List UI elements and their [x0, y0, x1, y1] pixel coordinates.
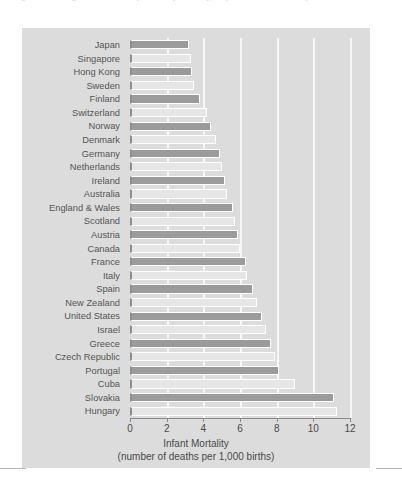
- table-row: [130, 309, 350, 324]
- x-tick-label-8: 8: [265, 423, 289, 434]
- category-label-united-states: United States: [0, 309, 124, 324]
- category-label-israel: Israel: [0, 323, 124, 338]
- bar-germany: [130, 149, 220, 158]
- x-tick-label-10: 10: [301, 423, 325, 434]
- category-label-scotland: Scotland: [0, 214, 124, 229]
- infant-mortality-figure: JapanSingaporeHong KongSwedenFinlandSwit…: [0, 0, 402, 490]
- category-label-switzerland: Switzerland: [0, 106, 124, 121]
- x-tick-label-0: 0: [118, 423, 142, 434]
- category-label-czech-republic: Czech Republic: [0, 350, 124, 365]
- x-tick-mark-6: [240, 418, 241, 422]
- bar-new-zealand: [130, 298, 257, 307]
- x-tick-label-6: 6: [228, 423, 252, 434]
- category-label-portugal: Portugal: [0, 364, 124, 379]
- bar-portugal: [130, 366, 279, 375]
- axis-subtitle: (number of deaths per 1,000 births): [22, 451, 370, 462]
- category-label-hong-kong: Hong Kong: [0, 65, 124, 80]
- bar-rows: [130, 38, 350, 418]
- category-label-cuba: Cuba: [0, 377, 124, 392]
- bar-israel: [130, 325, 266, 334]
- bar-finland: [130, 94, 200, 103]
- bar-australia: [130, 189, 227, 198]
- page-rule-right: [376, 468, 402, 469]
- bar-czech-republic: [130, 352, 275, 361]
- table-row: [130, 364, 350, 379]
- category-label-slovakia: Slovakia: [0, 391, 124, 406]
- table-row: [130, 391, 350, 406]
- bar-norway: [130, 122, 211, 131]
- category-label-singapore: Singapore: [0, 52, 124, 67]
- bar-greece: [130, 339, 271, 348]
- table-row: [130, 404, 350, 419]
- bar-japan: [130, 40, 189, 49]
- category-label-sweden: Sweden: [0, 79, 124, 94]
- category-label-ireland: Ireland: [0, 174, 124, 189]
- table-row: [130, 337, 350, 352]
- table-row: [130, 214, 350, 229]
- x-tick-label-12: 12: [338, 423, 362, 434]
- bar-ireland: [130, 176, 225, 185]
- table-row: [130, 377, 350, 392]
- category-label-england-wales: England & Wales: [0, 201, 124, 216]
- x-tick-mark-12: [350, 418, 351, 422]
- table-row: [130, 350, 350, 365]
- category-label-denmark: Denmark: [0, 133, 124, 148]
- category-label-australia: Australia: [0, 187, 124, 202]
- plot-area: [130, 38, 350, 418]
- bar-spain: [130, 284, 253, 293]
- table-row: [130, 255, 350, 270]
- table-row: [130, 201, 350, 216]
- bar-united-states: [130, 312, 262, 321]
- table-row: [130, 106, 350, 121]
- bar-singapore: [130, 54, 191, 63]
- category-label-greece: Greece: [0, 337, 124, 352]
- bar-france: [130, 257, 246, 266]
- table-row: [130, 38, 350, 53]
- bar-scotland: [130, 217, 235, 226]
- bar-hong-kong: [130, 67, 192, 76]
- category-axis-labels: JapanSingaporeHong KongSwedenFinlandSwit…: [0, 38, 124, 418]
- category-label-new-zealand: New Zealand: [0, 296, 124, 311]
- category-label-hungary: Hungary: [0, 404, 124, 419]
- x-tick-mark-4: [203, 418, 204, 422]
- bar-netherlands: [130, 162, 222, 171]
- x-tick-mark-10: [313, 418, 314, 422]
- category-label-spain: Spain: [0, 282, 124, 297]
- axis-title: Infant Mortality: [22, 438, 370, 449]
- x-tick-mark-2: [167, 418, 168, 422]
- page-rule-left: [0, 468, 26, 469]
- bar-england-wales: [130, 203, 233, 212]
- table-row: [130, 269, 350, 284]
- bar-slovakia: [130, 393, 334, 402]
- bar-austria: [130, 230, 238, 239]
- gridline-12: [350, 38, 352, 418]
- x-tick-mark-8: [277, 418, 278, 422]
- category-label-canada: Canada: [0, 242, 124, 257]
- table-row: [130, 133, 350, 148]
- bar-denmark: [130, 135, 216, 144]
- table-row: [130, 119, 350, 134]
- category-label-italy: Italy: [0, 269, 124, 284]
- table-row: [130, 79, 350, 94]
- bar-switzerland: [130, 108, 207, 117]
- category-label-japan: Japan: [0, 38, 124, 53]
- table-row: [130, 187, 350, 202]
- table-row: [130, 228, 350, 243]
- table-row: [130, 323, 350, 338]
- bar-canada: [130, 244, 240, 253]
- table-row: [130, 92, 350, 107]
- x-tick-label-4: 4: [191, 423, 215, 434]
- x-tick-mark-0: [130, 418, 131, 422]
- bar-hungary: [130, 407, 337, 416]
- table-row: [130, 242, 350, 257]
- category-label-austria: Austria: [0, 228, 124, 243]
- table-row: [130, 282, 350, 297]
- bar-italy: [130, 271, 247, 280]
- table-row: [130, 65, 350, 80]
- table-row: [130, 52, 350, 67]
- table-row: [130, 160, 350, 175]
- category-label-france: France: [0, 255, 124, 270]
- bar-sweden: [130, 81, 194, 90]
- table-row: [130, 147, 350, 162]
- table-row: [130, 296, 350, 311]
